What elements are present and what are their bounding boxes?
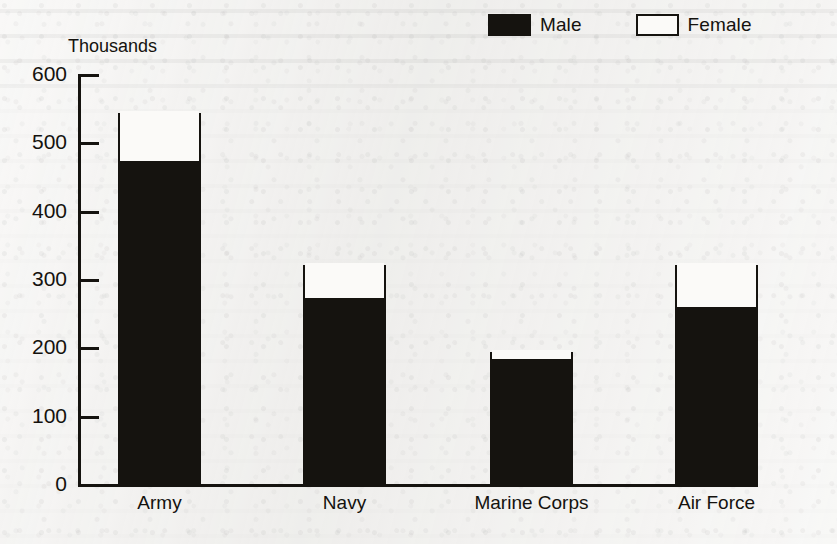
y-tick-label-400: 400 [32,199,67,223]
y-tick-label-600: 600 [32,62,67,86]
y-tick-200: 200 [81,347,99,350]
bar-segment-male [492,359,571,482]
x-label-navy: Navy [263,492,426,514]
x-label-air-force: Air Force [635,492,798,514]
y-tick-label-100: 100 [32,404,67,428]
stacked-bar-chart: Male Female Thousands 010020030040050060… [0,0,837,544]
bar-marine-corps[interactable] [490,352,573,484]
bar-air-force[interactable] [675,265,758,484]
y-tick-label-500: 500 [32,130,67,154]
y-tick-100: 100 [81,416,99,419]
y-tick-500: 500 [81,142,99,145]
x-label-marine-corps: Marine Corps [450,492,613,514]
bar-navy[interactable] [303,265,386,484]
y-tick-400: 400 [81,211,99,214]
bar-segment-male [305,298,384,482]
chart-legend: Male Female [488,14,752,36]
y-tick-label-0: 0 [55,472,67,496]
bar-army[interactable] [118,113,201,484]
y-tick-0: 0 [81,484,99,487]
bar-segment-female [677,263,756,307]
bar-segment-female [305,263,384,298]
legend-entry-male[interactable]: Male [488,14,582,36]
hollow-square-icon [636,14,679,36]
y-tick-600: 600 [81,74,99,77]
y-tick-300: 300 [81,279,99,282]
legend-label-male: Male [540,14,582,36]
x-axis-line [78,484,758,487]
filled-square-icon [488,14,531,36]
bar-segment-female [120,111,199,161]
x-label-army: Army [78,492,241,514]
y-tick-label-200: 200 [32,335,67,359]
bar-segment-female [492,350,571,359]
legend-entry-female[interactable]: Female [636,14,752,36]
y-tick-label-300: 300 [32,267,67,291]
plot-area: 0100200300400500600 ArmyNavyMarine Corps… [78,74,758,484]
bar-segment-male [120,161,199,482]
y-axis-title: Thousands [68,36,157,57]
bar-segment-male [677,307,756,482]
legend-label-female: Female [688,14,752,36]
